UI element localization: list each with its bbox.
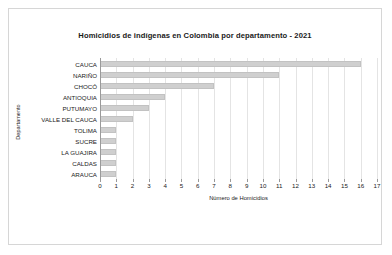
bar	[100, 61, 361, 67]
bar-row	[100, 80, 377, 91]
y-axis-tick-label: VALLE DEL CAUCA	[27, 116, 97, 123]
bar	[100, 83, 214, 89]
bar	[100, 116, 133, 122]
y-axis-tick-label: PUTUMAYO	[27, 104, 97, 111]
x-axis-tick-labels: 01234567891011121314151617	[100, 182, 377, 192]
bar	[100, 149, 116, 155]
x-axis-tick-label: 16	[357, 182, 364, 189]
x-axis-tick-label: 8	[229, 182, 232, 189]
bar	[100, 94, 165, 100]
x-axis-tick-label: 15	[341, 182, 348, 189]
y-axis-tick-label: TOLIMA	[27, 127, 97, 134]
x-axis-tick-label: 12	[292, 182, 299, 189]
y-axis-title: Departamento	[15, 104, 21, 139]
bar	[100, 127, 116, 133]
y-axis-tick-label: CHOCÓ	[27, 82, 97, 89]
bar-row	[100, 69, 377, 80]
x-axis-tick-label: 9	[245, 182, 248, 189]
x-axis-tick-label: 6	[196, 182, 199, 189]
y-axis-tick-label: ARAUCA	[27, 171, 97, 178]
x-axis-tick-label: 4	[163, 182, 166, 189]
bar-row	[100, 91, 377, 102]
bar-row	[100, 102, 377, 113]
gridline	[377, 58, 378, 180]
x-axis-tick-label: 5	[180, 182, 183, 189]
y-axis-tick-label: LA GUAJIRA	[27, 149, 97, 156]
y-axis-tick-label: NARIÑO	[27, 71, 97, 78]
bars-layer	[100, 58, 377, 180]
bar	[100, 138, 116, 144]
x-axis-tick-label: 7	[212, 182, 215, 189]
x-axis-tick-label: 10	[259, 182, 266, 189]
y-axis-tick-label: CALDAS	[27, 160, 97, 167]
bar	[100, 171, 116, 177]
bar	[100, 105, 149, 111]
bar-row	[100, 124, 377, 135]
y-axis-tick-label: ANTIOQUIA	[27, 93, 97, 100]
x-axis-line	[100, 58, 101, 180]
bar-row	[100, 147, 377, 158]
chart-title: Homicidios de indígenas en Colombia por …	[9, 31, 381, 40]
y-axis-tick-label: CAUCA	[27, 60, 97, 67]
x-axis-tick-label: 17	[374, 182, 381, 189]
chart-figure-frame: Homicidios de indígenas en Colombia por …	[8, 8, 382, 245]
x-axis-tick-label: 0	[98, 182, 101, 189]
bar-row	[100, 136, 377, 147]
x-axis-title: Número de Homicidios	[100, 195, 377, 201]
x-axis-tick-label: 1	[115, 182, 118, 189]
bar	[100, 72, 279, 78]
y-axis-tick-label: SUCRE	[27, 138, 97, 145]
bar-row	[100, 113, 377, 124]
y-axis-tick-labels: CAUCANARIÑOCHOCÓANTIOQUIAPUTUMAYOVALLE D…	[27, 58, 97, 180]
bar-row	[100, 169, 377, 180]
bar-row	[100, 158, 377, 169]
x-axis-tick-label: 14	[325, 182, 332, 189]
x-axis-tick-label: 13	[308, 182, 315, 189]
x-axis-tick-label: 2	[131, 182, 134, 189]
bar-row	[100, 58, 377, 69]
plot-area	[100, 58, 377, 180]
x-axis-tick-label: 3	[147, 182, 150, 189]
bar	[100, 160, 116, 166]
x-axis-tick-label: 11	[276, 182, 282, 189]
